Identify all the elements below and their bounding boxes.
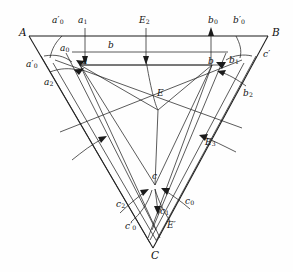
inner-band-triangle <box>41 52 256 243</box>
point-label-b1: b2 <box>243 89 253 99</box>
point-label-E2: E3 <box>205 138 216 148</box>
arc-a2 <box>50 69 78 72</box>
point-label-b0-prime-right: c′ <box>263 50 270 60</box>
point-label-c: c <box>152 172 157 181</box>
point-label-a0-prime-left: a′0 <box>26 60 38 70</box>
cevian-lines <box>66 53 226 238</box>
point-label-b2: b0 <box>208 16 218 26</box>
point-label-a0-prime-top: a′0 <box>52 16 64 26</box>
arc-arrows <box>44 27 252 222</box>
band-label-b: b <box>108 41 114 50</box>
point-label-c1: c2 <box>116 200 125 210</box>
point-label-c0-prime-left: c′0 <box>125 222 136 232</box>
point-label-a0: a0 <box>60 44 69 54</box>
arrowhead-b2 <box>208 27 214 36</box>
transversal-right-to-left <box>60 60 242 132</box>
band-line-AC-inner2 <box>53 63 156 240</box>
band-line-BC-inner <box>156 56 256 241</box>
vertex-label-A: A <box>19 27 27 38</box>
geometry-diagram: A B C a′0 a1 E2 b0 b′0 a0 b c′ a′0 a b b… <box>0 0 293 272</box>
point-label-E: E <box>157 89 164 98</box>
band-line-AC-inner <box>41 56 150 243</box>
point-label-b: b <box>208 57 214 66</box>
transversal-left-to-right <box>55 60 242 128</box>
point-label-c2: c0 <box>185 197 194 207</box>
point-label-a: a <box>82 57 87 66</box>
vertex-label-C: C <box>151 250 159 261</box>
diagram-canvas <box>0 0 293 272</box>
point-label-E1: E2 <box>139 16 150 26</box>
arrowhead-a2-to-a <box>74 68 84 75</box>
point-label-c0: c1 <box>160 207 169 217</box>
vertex-label-B: B <box>272 27 280 38</box>
segment-a-toward-C <box>80 65 160 238</box>
segment-a0-toward-C <box>66 53 156 230</box>
outer-triangle <box>29 36 268 248</box>
point-label-a1: a1 <box>78 16 87 26</box>
arc-E1-to-E <box>146 60 158 110</box>
point-label-b0: b1 <box>229 56 239 66</box>
arrowhead-b1 <box>217 70 226 76</box>
point-label-b0-prime-top: b′0 <box>233 16 245 26</box>
point-label-c0-prime-right: E′ <box>167 221 176 231</box>
point-label-a2: a2 <box>44 78 53 88</box>
arrowhead-c2 <box>161 188 170 195</box>
